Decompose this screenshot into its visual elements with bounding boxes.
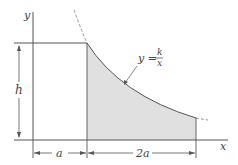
x-axis-label: x <box>220 140 227 153</box>
width-a-label: a <box>56 147 63 160</box>
area-diagram: y x h a 2a y = k x <box>0 0 238 165</box>
curve-equation-numerator: k <box>157 47 162 57</box>
curve-equation-lhs: y = <box>137 52 157 65</box>
curve-equation-denominator: x <box>157 58 162 68</box>
width-2a-label: 2a <box>135 147 150 160</box>
curve-dashed-extension-right <box>196 118 208 120</box>
curve-dashed-extension-top <box>74 10 87 43</box>
y-axis-label: y <box>23 9 31 22</box>
height-label: h <box>15 83 23 97</box>
curve-label-leader <box>124 66 137 85</box>
